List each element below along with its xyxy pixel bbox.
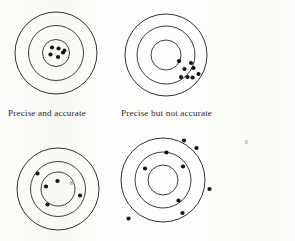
target-neither-precise-nor-accurate [0,0,295,241]
shot-mark [180,211,184,215]
target-rings-4 [0,0,295,241]
shot-mark [181,164,185,168]
shot-mark [207,187,211,191]
shot-mark [143,166,147,170]
figure-canvas: Precise and accurate Precise but not acc… [0,0,295,241]
ring-inner-4 [148,165,178,195]
shot-mark [182,138,186,142]
ring-outer-4 [121,138,205,222]
shot-mark [176,198,180,202]
shot-group-4 [126,138,211,220]
caption-precise-but-not-accurate: Precise but not accurate [121,108,212,119]
shot-mark [164,150,168,154]
caption-precise-and-accurate: Precise and accurate [8,108,86,119]
ring-middle-4 [135,152,191,208]
shot-mark [194,146,198,150]
shot-mark [126,216,130,220]
